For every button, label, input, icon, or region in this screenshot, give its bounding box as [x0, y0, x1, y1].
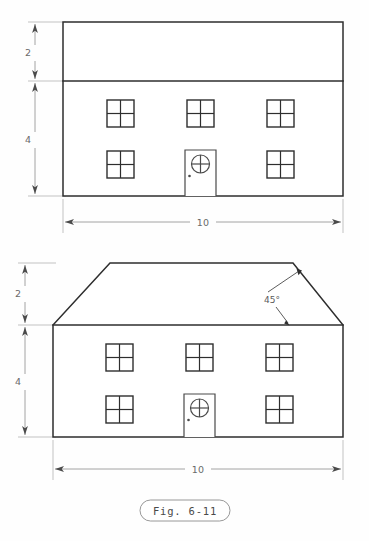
- dim-label-bottom-roof-height: 2: [15, 288, 21, 299]
- top-view-door-knob: [188, 175, 191, 178]
- bottom-view-door-knob: [187, 419, 190, 422]
- dim-label-bottom-width: 10: [192, 464, 205, 475]
- dim-label-bottom-wall-height: 4: [15, 376, 21, 387]
- dim-label-top-wall-height: 4: [25, 134, 31, 145]
- caption-label: Fig. 6-11: [153, 505, 217, 517]
- bottom-view-group: 2 4 10 45°: [10, 263, 343, 480]
- angle-label-45: 45°: [264, 295, 280, 305]
- figure-sheet: 2 4 10: [0, 0, 369, 541]
- top-view-front-door: [185, 150, 216, 196]
- dim-label-top-width: 10: [197, 217, 210, 228]
- technical-drawing-canvas: 2 4 10: [0, 0, 369, 541]
- figure-caption: Fig. 6-11: [140, 500, 230, 521]
- dim-label-top-roof-height: 2: [25, 47, 31, 58]
- top-view-group: 2 4 10: [20, 22, 343, 233]
- bottom-view-front-door: [184, 394, 215, 437]
